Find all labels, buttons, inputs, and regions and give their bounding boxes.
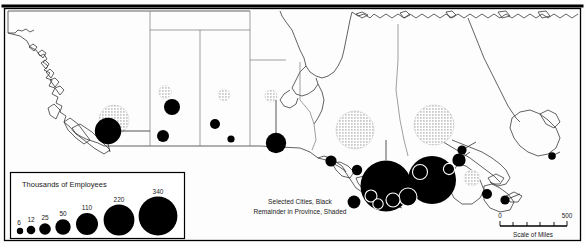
city-symbol <box>413 165 428 180</box>
legend-label: 50 <box>59 210 67 217</box>
legend-label: 110 <box>82 204 93 211</box>
key-note-line-2: Remainder in Province, Shaded <box>253 208 346 215</box>
city-symbol <box>500 195 509 204</box>
legend-label: 220 <box>114 196 125 203</box>
city-symbol <box>227 135 234 142</box>
scale-caption: Scale of Miles <box>513 231 553 238</box>
city-symbol <box>386 193 400 207</box>
scale-max-label: 500 <box>562 212 573 219</box>
legend-label: 6 <box>17 219 21 226</box>
legend-symbol <box>139 197 178 236</box>
legend-symbol <box>27 226 36 235</box>
province-symbol <box>464 170 480 186</box>
legend-symbol <box>17 228 23 234</box>
city-symbol <box>452 153 465 166</box>
city-symbol <box>548 152 556 160</box>
city-symbol <box>352 165 362 175</box>
legend-label: 340 <box>153 188 164 195</box>
legend-symbol <box>76 213 98 235</box>
scale-min-label: 0 <box>498 212 502 219</box>
city-symbol <box>373 199 383 209</box>
legend-title: Thousands of Employees <box>22 180 107 189</box>
city-symbol <box>210 119 220 129</box>
city-symbol <box>399 188 417 206</box>
city-symbol <box>95 118 121 144</box>
city-symbol <box>164 99 180 115</box>
city-symbol <box>348 196 361 209</box>
legend-symbol <box>55 219 70 234</box>
key-note-line-1: Selected Cities, Black <box>268 198 332 205</box>
canada-employment-map: Thousands of Employees 6 12 25 50 110 22… <box>0 0 585 245</box>
legend-symbol <box>39 223 51 235</box>
map-svg: Thousands of Employees 6 12 25 50 110 22… <box>0 0 585 245</box>
city-symbol <box>266 133 286 153</box>
city-symbol <box>157 130 169 142</box>
province-symbol <box>414 105 454 145</box>
legend-symbol <box>104 205 135 236</box>
province-symbol <box>159 86 172 99</box>
province-symbol <box>336 111 374 149</box>
province-symbol <box>265 90 277 102</box>
city-symbol <box>457 145 466 154</box>
city-symbol <box>325 155 336 166</box>
city-symbol <box>443 163 454 174</box>
legend-label: 25 <box>41 214 49 221</box>
city-symbol <box>482 189 492 199</box>
province-symbol <box>218 89 230 101</box>
legend: Thousands of Employees 6 12 25 50 110 22… <box>11 173 185 239</box>
legend-label: 12 <box>27 216 35 223</box>
